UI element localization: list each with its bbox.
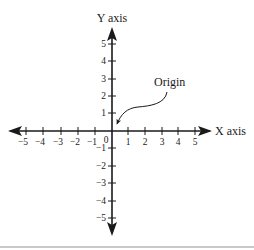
y-tick-label: −4: [96, 196, 106, 206]
y-tick-label: 1: [101, 108, 106, 118]
y-tick-label: 5: [101, 39, 106, 49]
coordinate-plane-diagram: −5 −4 −3 −2 −1 1 2 3 4 5 0 5 4 3 2 1 −1 …: [0, 0, 254, 250]
x-tick-label: −2: [70, 137, 80, 147]
bottom-divider: [0, 246, 254, 248]
y-tick-label: −2: [96, 161, 106, 171]
x-axis-label: X axis: [215, 124, 246, 138]
x-tick-label: 3: [160, 137, 165, 147]
y-tick-label: 4: [101, 56, 106, 66]
origin-label: Origin: [154, 75, 185, 89]
x-tick-labels: −5 −4 −3 −2 −1 1 2 3 4 5 0: [18, 135, 198, 147]
y-tick-label: 2: [101, 91, 106, 101]
y-tick-label: 3: [101, 74, 106, 84]
x-tick-label: 1: [126, 137, 131, 147]
y-axis-label: Y axis: [97, 11, 128, 25]
x-tick-label: −4: [35, 137, 45, 147]
y-tick-label: −5: [96, 213, 106, 223]
y-tick-label: −3: [96, 178, 106, 188]
x-axis: [8, 126, 212, 136]
x-tick-label: −5: [18, 137, 28, 147]
y-tick-label: −1: [96, 143, 106, 153]
x-tick-label: 5: [193, 137, 198, 147]
x-tick-label: 4: [176, 137, 181, 147]
x-tick-label: −3: [53, 137, 63, 147]
x-tick-label: 2: [143, 137, 148, 147]
origin-pointer-arrow-icon: [117, 92, 167, 124]
